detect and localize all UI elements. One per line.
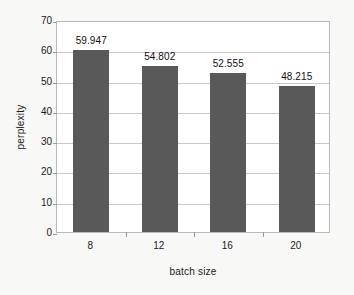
bar-value-label: 48.215: [281, 72, 312, 82]
bar[interactable]: [73, 50, 109, 232]
x-tick-mark: [194, 232, 195, 237]
y-axis-tick-labels: 010203040506070: [28, 21, 52, 233]
y-tick-label: 0: [28, 228, 52, 238]
bar[interactable]: [279, 86, 315, 232]
bar-value-label: 52.555: [213, 59, 244, 69]
x-tick-label: 12: [125, 240, 194, 252]
bar[interactable]: [210, 73, 246, 232]
y-tick-label: 20: [28, 167, 52, 177]
y-tick-label: 50: [28, 77, 52, 87]
x-tick-mark: [126, 232, 127, 237]
y-tick-label: 60: [28, 46, 52, 56]
plot-area: 59.94754.80252.55548.215: [56, 21, 330, 233]
bar-group: 59.947: [57, 22, 126, 232]
bar-group: 48.215: [263, 22, 332, 232]
x-tick-label: 20: [262, 240, 331, 252]
bars-layer: 59.94754.80252.55548.215: [57, 22, 329, 232]
bar-chart-figure: perplexity 010203040506070 59.94754.8025…: [0, 0, 354, 295]
bar-group: 52.555: [194, 22, 263, 232]
bar[interactable]: [142, 66, 178, 232]
x-axis-tick-labels: 8121620: [56, 240, 330, 254]
bar-value-label: 59.947: [76, 36, 107, 46]
y-tick-label: 40: [28, 107, 52, 117]
y-tick-label: 30: [28, 137, 52, 147]
x-tick-label: 8: [56, 240, 125, 252]
x-tick-label: 16: [193, 240, 262, 252]
x-axis-title: batch size: [56, 266, 330, 277]
y-tick-mark: [53, 234, 57, 235]
y-tick-label: 70: [28, 16, 52, 26]
x-tick-mark: [263, 232, 264, 237]
bar-value-label: 54.802: [144, 52, 175, 62]
y-tick-label: 10: [28, 198, 52, 208]
y-axis-title: perplexity: [13, 21, 29, 233]
bar-group: 54.802: [126, 22, 195, 232]
